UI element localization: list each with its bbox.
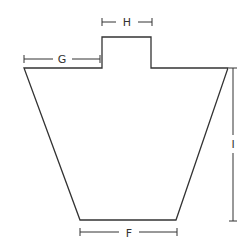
dimension-label-h: H <box>123 16 131 29</box>
shape-outline <box>24 37 228 220</box>
dimension-label-i: I <box>231 138 234 151</box>
dimension-label-f: F <box>126 227 132 240</box>
dimension-h: H <box>102 16 152 29</box>
dimension-f: F <box>80 227 177 240</box>
trapezoid-dimension-diagram: H G I F <box>0 0 252 247</box>
dimension-g: G <box>24 53 100 66</box>
dimension-label-g: G <box>58 53 67 66</box>
dimension-i: I <box>229 68 237 221</box>
